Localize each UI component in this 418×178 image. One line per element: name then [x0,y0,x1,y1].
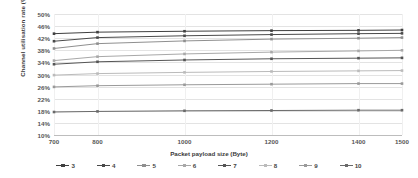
data-point [53,111,56,114]
data-point [270,57,273,60]
legend-swatch-icon [218,162,231,169]
legend-label: 5 [152,162,155,169]
data-point [96,55,99,58]
legend-swatch-icon [259,162,272,169]
data-point [53,32,56,35]
series-line-9 [54,84,402,87]
data-point [270,29,273,32]
legend-item-9[interactable]: 9 [299,162,317,169]
y-tick-label: 42% [38,35,50,42]
data-point [401,49,404,52]
data-point [270,33,273,36]
legend-swatch-icon [178,162,191,169]
legend-swatch-icon [97,162,110,169]
data-point [53,63,56,66]
legend-label: 4 [112,162,115,169]
data-point [401,82,404,85]
data-point [270,109,273,112]
data-point [53,40,56,43]
series-line-8 [54,71,402,76]
data-point [401,32,404,35]
data-point [357,57,360,60]
legend-label: 3 [71,162,74,169]
data-point [270,83,273,86]
data-point [270,38,273,41]
x-tick-label: 1000 [178,138,192,145]
legend-item-6[interactable]: 6 [178,162,196,169]
series-layer [54,14,402,135]
chart-figure: Channel utilisation rate (%) 50%46%42%38… [0,0,418,178]
data-point [183,40,186,43]
y-tick-label: 38% [38,47,50,54]
legend-swatch-icon [299,162,312,169]
x-axis-title: Packet payload size (Byte) [0,150,418,157]
legend-swatch-icon [56,162,69,169]
data-point [357,50,360,53]
data-point [53,47,56,50]
legend-label: 6 [193,162,196,169]
data-point [96,31,99,34]
data-point [96,84,99,87]
y-axis-title: Channel utilisation rate (%) [19,0,26,96]
data-point [53,59,56,62]
y-tick-label: 26% [38,83,50,90]
legend-item-5[interactable]: 5 [137,162,155,169]
data-point [270,70,273,73]
data-point [401,36,404,39]
legend-item-4[interactable]: 4 [97,162,115,169]
data-point [401,29,404,32]
data-point [96,72,99,75]
data-point [96,42,99,45]
legend-item-10[interactable]: 10 [340,162,362,169]
y-tick-label: 30% [38,71,50,78]
x-tick-label: 700 [49,138,59,145]
data-point [96,110,99,113]
data-point [183,71,186,74]
y-tick-label: 50% [38,11,50,18]
x-tick-label: 1400 [352,138,366,145]
data-point [96,60,99,63]
data-point [357,82,360,85]
legend-label: 10 [355,162,362,169]
legend-label: 9 [314,162,317,169]
series-line-3 [54,30,402,34]
y-tick-label: 14% [38,119,50,126]
data-point [357,37,360,40]
x-tick-label: 800 [92,138,102,145]
series-line-5 [54,38,402,49]
data-point [183,59,186,62]
data-point [53,74,56,77]
x-tick-label: 1500 [395,138,409,145]
data-point [183,110,186,113]
legend-item-7[interactable]: 7 [218,162,236,169]
legend-swatch-icon [137,162,150,169]
data-point [401,109,404,112]
x-tick-label: 1200 [265,138,279,145]
data-point [357,109,360,112]
data-point [183,34,186,37]
chart-legend: 345678910 [0,162,418,169]
data-point [96,36,99,39]
legend-label: 8 [274,162,277,169]
data-point [357,70,360,73]
y-tick-label: 22% [38,95,50,102]
y-tick-label: 34% [38,59,50,66]
data-point [183,83,186,86]
legend-item-3[interactable]: 3 [56,162,74,169]
legend-label: 7 [233,162,236,169]
data-point [401,69,404,72]
data-point [357,32,360,35]
data-point [357,29,360,32]
legend-item-8[interactable]: 8 [259,162,277,169]
plot-area: 50%46%42%38%34%30%26%22%18%14%10% 700800… [54,14,402,135]
y-tick-label: 46% [38,23,50,30]
x-axis-line [54,135,402,136]
series-line-7 [54,58,402,64]
legend-swatch-icon [340,162,353,169]
y-tick-label: 18% [38,107,50,114]
data-point [183,53,186,56]
data-point [270,51,273,54]
data-point [53,86,56,89]
data-point [401,57,404,60]
series-line-10 [54,110,402,112]
